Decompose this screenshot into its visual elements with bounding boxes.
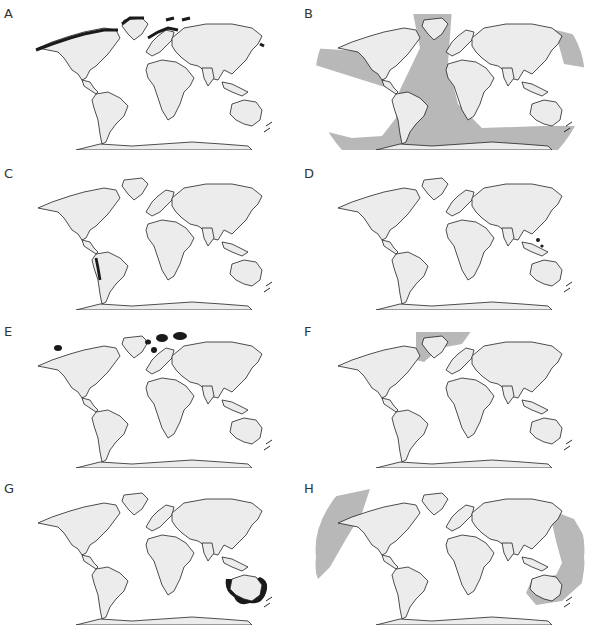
map-panel-e: E	[0, 318, 290, 476]
map-panel-a: A	[0, 0, 290, 158]
map-panel-b: B	[300, 0, 590, 158]
map-panel-c: C	[0, 160, 290, 318]
world-map	[12, 483, 288, 631]
map-panel-g: G	[0, 475, 290, 633]
world-map	[312, 483, 588, 631]
map-panel-f: F	[300, 318, 590, 476]
world-map	[12, 168, 288, 316]
world-map	[312, 8, 588, 156]
world-map	[312, 326, 588, 474]
world-map	[12, 326, 288, 474]
world-map	[312, 168, 588, 316]
world-map	[12, 8, 288, 156]
panel-label: E	[4, 324, 12, 339]
map-panel-d: D	[300, 160, 590, 318]
panel-label: F	[304, 324, 311, 339]
map-panel-h: H	[300, 475, 590, 633]
